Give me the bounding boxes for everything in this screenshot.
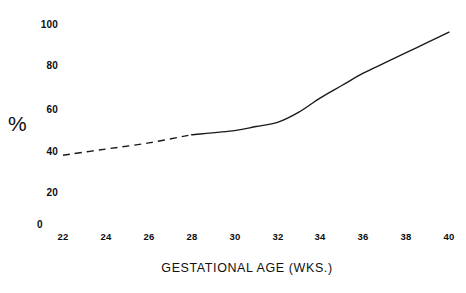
series-line-dashed	[63, 135, 192, 156]
series-line-solid	[192, 32, 449, 135]
plot-area	[0, 0, 466, 293]
chart-container: % 100 80 60 40 20 0 22 24 26 28 30 32 34…	[0, 0, 466, 293]
